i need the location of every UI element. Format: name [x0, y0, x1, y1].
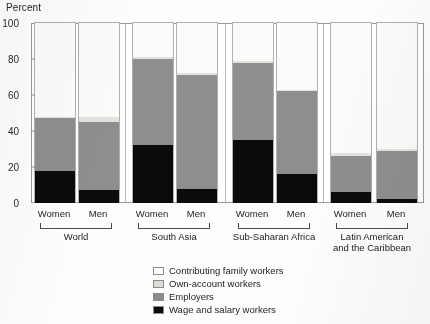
bar-segment-ownaccount: [133, 57, 173, 59]
y-tick-label: 20: [0, 162, 25, 173]
bar-latin-american-and-the-caribbean-women[interactable]: [330, 22, 372, 202]
bar-world-men[interactable]: [78, 22, 120, 202]
bar-segment-employers: [133, 59, 173, 145]
bar-segment-wage: [177, 189, 217, 203]
bar-segment-ownaccount: [377, 149, 417, 151]
bar-segment-wage: [133, 145, 173, 203]
x-tick-label: Men: [387, 208, 405, 219]
x-tick-label: Women: [236, 208, 269, 219]
y-tick-mark: [31, 59, 35, 60]
y-tick-mark: [31, 131, 35, 132]
bar-segment-contributing: [377, 23, 417, 149]
legend-swatch-own-account-workers: [153, 280, 164, 288]
y-tick-mark: [31, 167, 35, 168]
bar-segment-wage: [35, 171, 75, 203]
bar-segment-employers: [331, 156, 371, 192]
group-label: World: [64, 231, 89, 242]
x-tick-label: Men: [187, 208, 205, 219]
legend-label: Own-account workers: [169, 278, 261, 289]
group-bracket: [138, 223, 210, 229]
bar-segment-employers: [377, 151, 417, 200]
bar-segment-contributing: [79, 23, 119, 117]
bar-segment-wage: [277, 174, 317, 203]
y-tick-label: 40: [0, 126, 25, 137]
bar-segment-wage: [331, 192, 371, 203]
bar-world-women[interactable]: [34, 22, 76, 202]
bar-segment-wage: [79, 190, 119, 203]
bar-south-asia-women[interactable]: [132, 22, 174, 202]
bar-segment-contributing: [233, 23, 273, 61]
bar-segment-wage: [233, 140, 273, 203]
y-tick-label: 0: [0, 198, 25, 209]
y-tick-label: 80: [0, 54, 25, 65]
y-axis-title: Percent: [6, 2, 41, 13]
bar-segment-ownaccount: [277, 90, 317, 92]
group-label: Sub-Saharan Africa: [233, 231, 315, 242]
plot-area: [31, 23, 424, 203]
group-label: Latin Americanand the Caribbean: [333, 231, 411, 253]
group-label-line: and the Caribbean: [333, 242, 411, 253]
bar-segment-employers: [35, 118, 75, 170]
group-bracket: [238, 223, 310, 229]
y-tick-label: 60: [0, 90, 25, 101]
bar-segment-contributing: [35, 23, 75, 117]
chart-legend: Contributing family workers Own-account …: [153, 264, 284, 316]
legend-item[interactable]: Own-account workers: [153, 277, 284, 290]
x-tick-label: Men: [287, 208, 305, 219]
bar-segment-ownaccount: [233, 61, 273, 63]
legend-swatch-employers: [153, 293, 164, 301]
bar-segment-ownaccount: [35, 117, 75, 119]
bar-segment-employers: [277, 91, 317, 174]
bar-segment-employers: [79, 122, 119, 190]
bar-segment-ownaccount: [331, 153, 371, 157]
x-tick-label: Men: [89, 208, 107, 219]
bar-south-asia-men[interactable]: [176, 22, 218, 202]
bar-segment-wage: [377, 199, 417, 203]
bar-segment-ownaccount: [177, 73, 217, 75]
bar-segment-employers: [177, 75, 217, 188]
bar-segment-employers: [233, 63, 273, 140]
legend-item[interactable]: Wage and salary workers: [153, 303, 284, 316]
bar-sub-saharan-africa-women[interactable]: [232, 22, 274, 202]
group-bracket: [40, 223, 112, 229]
x-tick-label: Women: [136, 208, 169, 219]
y-tick-mark: [31, 95, 35, 96]
bar-segment-ownaccount: [79, 117, 119, 122]
group-separator: [225, 24, 226, 202]
group-separator: [323, 24, 324, 202]
group-separator: [125, 24, 126, 202]
bar-sub-saharan-africa-men[interactable]: [276, 22, 318, 202]
legend-label: Employers: [169, 291, 214, 302]
bar-segment-contributing: [277, 23, 317, 90]
chart-page: Percent 100806040200 WomenMenWomenMenWom…: [0, 0, 430, 324]
legend-swatch-contributing-family-workers: [153, 267, 164, 275]
group-label: South Asia: [151, 231, 196, 242]
group-label-line: Latin American: [333, 231, 411, 242]
bar-latin-american-and-the-caribbean-men[interactable]: [376, 22, 418, 202]
legend-swatch-wage-and-salary-workers: [153, 306, 164, 314]
x-tick-label: Women: [38, 208, 71, 219]
y-tick-label: 100: [0, 18, 25, 29]
group-bracket: [336, 223, 408, 229]
bar-segment-contributing: [133, 23, 173, 57]
legend-label: Contributing family workers: [169, 265, 284, 276]
legend-item[interactable]: Contributing family workers: [153, 264, 284, 277]
bar-segment-contributing: [177, 23, 217, 73]
legend-label: Wage and salary workers: [169, 304, 276, 315]
plot-inner: [32, 24, 423, 202]
x-tick-label: Women: [334, 208, 367, 219]
bar-segment-contributing: [331, 23, 371, 153]
legend-item[interactable]: Employers: [153, 290, 284, 303]
